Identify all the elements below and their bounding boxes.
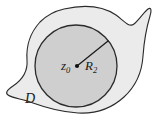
- radius-label-base: R: [84, 58, 93, 73]
- region-label: D: [24, 91, 35, 106]
- region-disk-diagram: z0 R2 D: [0, 0, 157, 126]
- figure-container: z0 R2 D: [0, 0, 157, 126]
- center-dot: [75, 64, 79, 68]
